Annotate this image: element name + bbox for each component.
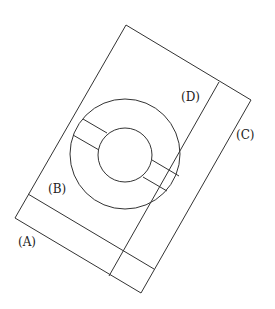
outer-rectangle (15, 25, 251, 293)
slot-line-upper-1 (83, 119, 107, 133)
diagram-canvas: (D) (C) (B) (A) (0, 0, 275, 309)
label-c: (C) (236, 128, 255, 142)
divider-a-b (28, 194, 154, 269)
divider-c-d (109, 82, 219, 276)
slot-line-upper-2 (73, 135, 99, 150)
slot-line-lower-1 (152, 160, 179, 176)
outer-circle (70, 99, 180, 209)
label-b: (B) (48, 182, 66, 196)
inner-circle (98, 128, 152, 182)
label-d: (D) (181, 90, 200, 104)
label-a: (A) (18, 235, 36, 249)
